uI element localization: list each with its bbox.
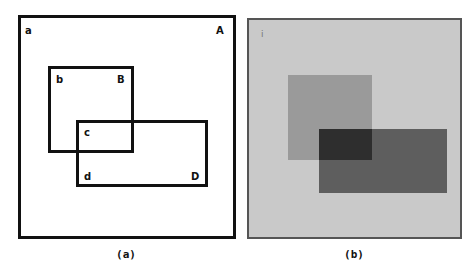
caption-b: (b): [344, 249, 364, 261]
label-c: c: [84, 128, 90, 138]
caption-a: (a): [116, 249, 136, 261]
panel-a: a A b B c d D (a): [0, 0, 240, 275]
region-overlap-shade: [319, 129, 372, 160]
label-D: D: [191, 172, 199, 182]
label-B: B: [117, 75, 125, 85]
region-D-frame: [76, 120, 208, 187]
label-a: a: [25, 26, 32, 36]
panel-b: i (b): [240, 0, 476, 275]
label-A: A: [216, 26, 224, 36]
label-d: d: [84, 172, 91, 182]
corner-mark: i: [261, 29, 264, 39]
label-b: b: [56, 75, 63, 85]
